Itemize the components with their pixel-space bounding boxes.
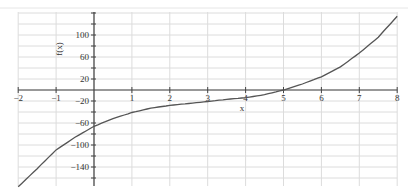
x-tick-label: 2: [168, 93, 173, 103]
grid: [0, 8, 408, 186]
x-tick-label: 8: [395, 93, 400, 103]
x-tick-label: 6: [319, 93, 324, 103]
x-axis-label: x: [240, 103, 245, 113]
x-tick-label: 5: [281, 93, 286, 103]
x-tick-label: −2: [13, 93, 23, 103]
y-tick-label: −100: [70, 140, 89, 150]
y-tick-label: 60: [80, 52, 90, 62]
y-tick-label: 100: [76, 30, 90, 40]
y-tick-label: 20: [80, 74, 90, 84]
y-axis-label: f(x): [54, 42, 64, 56]
y-tick-label: −20: [75, 96, 90, 106]
x-tick-label: 1: [130, 93, 135, 103]
y-tick-label: −60: [75, 118, 90, 128]
function-plot: −2−112345678 1006020−20−60−100−140 x f(x…: [0, 0, 408, 196]
x-tick-label: 7: [357, 93, 362, 103]
y-tick-label: −140: [70, 162, 89, 172]
x-tick-label: −1: [51, 93, 61, 103]
